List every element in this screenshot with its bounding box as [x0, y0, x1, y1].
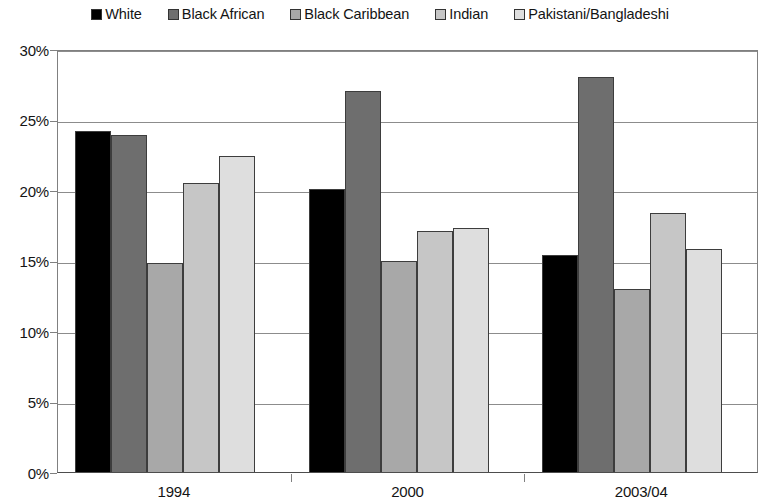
x-axis-tick-mark — [524, 474, 525, 482]
square-swatch-icon — [290, 9, 301, 20]
bar — [75, 131, 111, 472]
bar-chart: WhiteBlack AfricanBlack CaribbeanIndianP… — [0, 0, 760, 503]
square-swatch-icon — [514, 9, 525, 20]
bar — [309, 189, 345, 472]
bar — [147, 263, 183, 472]
x-axis-tick-label: 2000 — [291, 483, 525, 500]
y-axis-tick-mark — [50, 473, 57, 474]
y-axis-tick-mark — [50, 191, 57, 192]
square-swatch-icon — [168, 9, 179, 20]
square-swatch-icon — [435, 9, 446, 20]
bar — [614, 289, 650, 472]
legend-item[interactable]: White — [91, 7, 142, 22]
bar — [578, 77, 614, 472]
legend-item-label: Pakistani/Bangladeshi — [528, 7, 669, 22]
y-axis-tick-mark — [50, 50, 57, 51]
y-axis-tick-mark — [50, 262, 57, 263]
bar — [111, 135, 147, 472]
legend-item-label: Black African — [182, 7, 265, 22]
y-axis-tick-mark — [50, 332, 57, 333]
y-axis-tick-mark — [50, 121, 57, 122]
plot-area — [57, 50, 758, 473]
legend-item[interactable]: Pakistani/Bangladeshi — [514, 7, 669, 22]
y-axis-tick: 10% — [0, 323, 57, 341]
gridline — [58, 192, 757, 193]
x-axis-tick-label: 1994 — [57, 483, 291, 500]
chart-legend: WhiteBlack AfricanBlack CaribbeanIndianP… — [0, 0, 760, 28]
y-axis-tick: 0% — [0, 464, 57, 482]
y-axis-tick: 25% — [0, 112, 57, 130]
bar — [650, 213, 686, 472]
bar — [345, 91, 381, 472]
x-axis: 199420002003/04 — [57, 474, 758, 503]
y-axis: 0%5%10%15%20%25%30% — [0, 40, 57, 483]
bar — [417, 231, 453, 472]
x-axis-tick-mark — [291, 474, 292, 482]
y-axis-tick: 5% — [0, 394, 57, 412]
legend-item[interactable]: Indian — [435, 7, 488, 22]
gridline — [58, 122, 757, 123]
square-swatch-icon — [91, 9, 102, 20]
legend-item-label: Indian — [449, 7, 488, 22]
bar — [686, 249, 722, 472]
y-axis-tick: 30% — [0, 41, 57, 59]
legend-item[interactable]: Black African — [168, 7, 265, 22]
x-axis-tick-label: 2003/04 — [524, 483, 758, 500]
gridline — [58, 51, 757, 52]
legend-item-label: White — [105, 7, 142, 22]
bar — [219, 156, 255, 472]
y-axis-tick: 15% — [0, 253, 57, 271]
legend-item-label: Black Caribbean — [304, 7, 409, 22]
y-axis-tick-mark — [50, 403, 57, 404]
bar — [381, 261, 417, 473]
bar — [542, 255, 578, 472]
bar — [183, 183, 219, 472]
y-axis-tick: 20% — [0, 182, 57, 200]
legend-item[interactable]: Black Caribbean — [290, 7, 409, 22]
bar — [453, 228, 489, 472]
